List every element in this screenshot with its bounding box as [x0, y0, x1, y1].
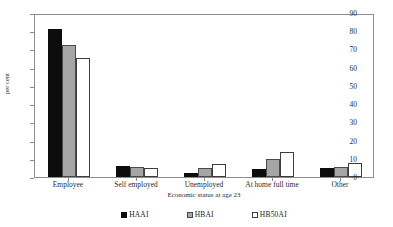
x-tick-mark: [68, 178, 69, 181]
y-tick-label: 70: [331, 46, 357, 54]
legend-item: HB50AI: [252, 211, 287, 219]
bar: [130, 167, 144, 177]
y-tick-mark: [30, 50, 34, 51]
bar: [144, 168, 158, 177]
bar: [48, 29, 62, 177]
legend-item: HBAI: [187, 211, 214, 219]
y-tick-mark: [30, 87, 34, 88]
legend-label: HB50AI: [260, 211, 287, 219]
x-tick-label: Other: [306, 180, 374, 189]
bar-group: [320, 15, 362, 177]
plot-area: [34, 14, 374, 178]
y-tick-mark: [30, 105, 34, 106]
bar: [62, 45, 76, 177]
y-tick-mark: [30, 69, 34, 70]
bar: [198, 168, 212, 177]
chart-legend: HAAIHBAIHB50AI: [34, 209, 374, 221]
cropped-title: [60, 0, 350, 5]
x-tick-label: Self employed: [102, 180, 170, 189]
legend-swatch-icon: [252, 212, 258, 218]
y-tick-label: 50: [331, 83, 357, 91]
bar-group: [116, 15, 158, 177]
bar-group: [48, 15, 90, 177]
x-tick-mark: [136, 178, 137, 181]
bar: [76, 58, 90, 177]
x-axis-label: Economic status at age 23: [34, 191, 374, 200]
legend-swatch-icon: [187, 212, 193, 218]
bar: [116, 166, 130, 177]
y-tick-label: 80: [331, 28, 357, 36]
x-tick-mark: [204, 178, 205, 181]
x-tick-mark: [340, 178, 341, 181]
bar: [252, 169, 266, 177]
y-tick-label: 10: [331, 156, 357, 164]
legend-label: HAAI: [129, 211, 149, 219]
x-tick-label: Employee: [34, 180, 102, 189]
bar-group: [184, 15, 226, 177]
y-axis: per cent: [0, 0, 34, 178]
bars-layer: [35, 15, 373, 177]
legend-item: HAAI: [121, 211, 149, 219]
bar: [280, 152, 294, 177]
y-axis-label: per cent: [3, 62, 10, 106]
y-tick-label: 90: [331, 10, 357, 18]
y-tick-mark: [30, 123, 34, 124]
y-tick-mark: [30, 14, 34, 15]
legend-label: HBAI: [195, 211, 214, 219]
bar: [184, 173, 198, 177]
x-tick-label: At home full time: [238, 180, 306, 189]
chart-figure: per cent 0102030405060708090 EmployeeSel…: [0, 0, 393, 227]
y-tick-mark: [30, 142, 34, 143]
bar: [266, 159, 280, 177]
y-tick-mark: [30, 178, 34, 179]
x-tick-label: Unemployed: [170, 180, 238, 189]
y-tick-label: 30: [331, 119, 357, 127]
y-tick-label: 40: [331, 101, 357, 109]
bar: [212, 164, 226, 177]
y-tick-label: 60: [331, 65, 357, 73]
x-tick-mark: [272, 178, 273, 181]
bar-group: [252, 15, 294, 177]
y-tick-label: 20: [331, 138, 357, 146]
legend-swatch-icon: [121, 212, 127, 218]
y-tick-mark: [30, 160, 34, 161]
y-tick-mark: [30, 32, 34, 33]
